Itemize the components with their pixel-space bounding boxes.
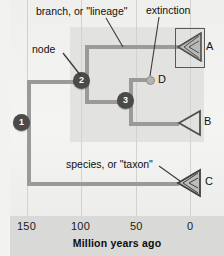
branch-node1-to-C: [27, 182, 179, 186]
leader-line-branch: [104, 17, 126, 49]
taxon-label-A: A: [206, 40, 213, 52]
axis-tick-50: 50: [130, 220, 143, 232]
leader-line-node: [62, 52, 84, 78]
branch-node2-to-A: [85, 45, 179, 49]
taxon-label-B: B: [204, 115, 211, 127]
node-3[interactable]: 3: [117, 92, 134, 109]
axis-title: Million years ago: [10, 237, 224, 249]
axis-tick-0: 0: [187, 220, 193, 232]
callout-species-taxon: species, or "taxon": [66, 158, 153, 170]
phylogenetic-tree-figure: 1 2 3 D A B C branch, or "lineage" extin…: [0, 0, 224, 256]
axis-tick-150: 150: [17, 220, 36, 232]
taxon-label-C: C: [205, 175, 213, 187]
callout-branch-lineage: branch, or "lineage": [36, 5, 128, 17]
axis-tick-100: 100: [71, 220, 90, 232]
leader-line-extinction: [148, 16, 162, 78]
taxon-B-triangle-icon: [176, 109, 202, 137]
taxon-A-triangle-icon: [176, 32, 202, 62]
node-1[interactable]: 1: [13, 114, 30, 131]
callout-extinction: extinction: [146, 4, 190, 16]
leader-line-species: [158, 165, 182, 183]
callout-node: node: [32, 43, 55, 55]
branch-node1-to-C-vertical: [27, 122, 31, 184]
branch-node3-to-B: [129, 122, 179, 126]
